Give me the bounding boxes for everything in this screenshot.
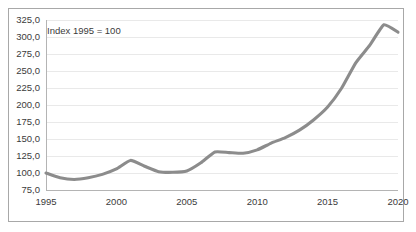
index-base-annotation: Index 1995 = 100 [47,25,121,36]
x-tick-label: 2015 [317,196,338,207]
y-tick-label: 125,0 [16,150,40,161]
y-tick-label: 100,0 [16,167,40,178]
y-tick-label: 175,0 [16,116,40,127]
y-tick-label: 325,0 [16,14,40,25]
gridlines-group [46,21,398,191]
x-tick-label: 2010 [247,196,268,207]
line-chart: 75,0100,0125,0150,0175,0200,0225,0250,02… [0,0,416,232]
y-tick-label: 200,0 [16,99,40,110]
y-tick-label: 250,0 [16,65,40,76]
x-tick-label: 2020 [387,196,408,207]
x-axis-tick-labels: 199520002005201020152020 [35,196,408,207]
y-tick-label: 75,0 [22,184,41,195]
y-tick-label: 150,0 [16,133,40,144]
chart-container: 75,0100,0125,0150,0175,0200,0225,0250,02… [0,0,416,232]
y-axis-tick-labels: 75,0100,0125,0150,0175,0200,0225,0250,02… [16,14,40,195]
y-tick-label: 300,0 [16,31,40,42]
x-tick-label: 2000 [106,196,127,207]
y-tick-label: 275,0 [16,48,40,59]
y-tick-label: 225,0 [16,82,40,93]
x-tick-label: 2005 [176,196,197,207]
x-tick-label: 1995 [35,196,56,207]
